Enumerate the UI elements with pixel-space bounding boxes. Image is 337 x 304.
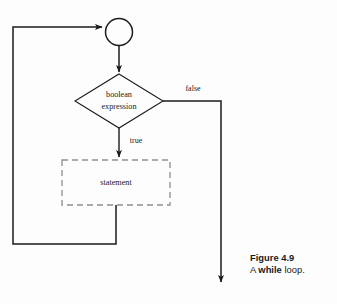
caption-keyword: while	[258, 264, 281, 275]
condition-label-line2: expression	[101, 102, 136, 111]
false-branch-edge	[163, 101, 221, 282]
entry-circle-node	[106, 19, 133, 46]
figure-caption: Figure 4.9 A while loop.	[250, 252, 305, 275]
figure-canvas: boolean expression true false statement …	[0, 0, 337, 304]
loop-back-edge	[13, 27, 116, 244]
statement-label: statement	[100, 178, 132, 187]
condition-label-line1: boolean	[106, 90, 132, 99]
figure-caption-text: A while loop.	[250, 264, 305, 276]
figure-caption-number: Figure 4.9	[250, 252, 305, 264]
false-branch-label: false	[185, 84, 201, 93]
true-branch-label: true	[130, 136, 143, 145]
caption-suffix: loop.	[282, 264, 305, 275]
